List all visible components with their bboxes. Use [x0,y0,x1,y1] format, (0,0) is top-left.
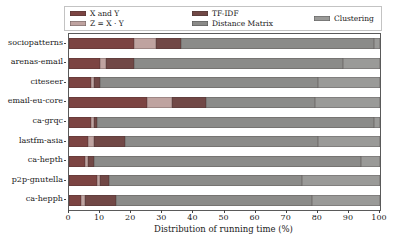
bar-segment [69,136,88,147]
bar-segment [156,38,181,49]
bar-segment [374,38,380,49]
chart-figure: X and YZ = X · YTF-IDFDistance MatrixClu… [0,0,398,241]
bar-row [69,97,380,108]
bar-segment [125,136,318,147]
bar-segment [100,175,109,186]
legend-swatch-icon [314,16,330,21]
bar-segment [318,77,380,88]
bar-segment [109,175,302,186]
y-tick-mark [64,121,66,122]
x-axis-ticks: 0102030405060708090100 [68,210,379,224]
legend-label: Clustering [334,14,374,23]
x-tick-label: 70 [281,213,291,222]
y-tick-mark [64,199,66,200]
bar-segment [134,38,156,49]
bar-segment [312,195,380,206]
legend-item: TF-IDF [192,9,314,19]
bar-segment [206,97,315,108]
bar-row [69,38,380,49]
bar-row [69,77,380,88]
x-tick-label: 80 [312,213,322,222]
x-tick-label: 30 [156,213,166,222]
y-tick-label: ca-grqc [33,117,64,125]
y-tick-mark [64,43,66,44]
bar-segment [69,156,85,167]
legend-item: Clustering [314,14,376,24]
y-tick-mark [64,160,66,161]
x-tick-label: 0 [65,213,70,222]
bar-segment [85,195,116,206]
bar-segment [315,97,380,108]
legend-swatch-icon [70,11,86,16]
bar-segment [361,156,380,167]
bar-segment [69,175,97,186]
bar-row [69,175,380,186]
x-tick-label: 20 [125,213,135,222]
legend-label: Z = X · Y [90,19,124,28]
plot-area [68,33,381,211]
bar-row [69,136,380,147]
bar-segment [147,97,172,108]
y-axis-labels: sociopatternsarenas-emailciteseeremail-e… [0,33,66,209]
bar-segment [172,97,206,108]
x-tick-label: 40 [187,213,197,222]
y-tick-label: lastfm-asia [19,137,63,145]
y-tick-mark [64,101,66,102]
bar-segment [100,77,318,88]
y-tick-mark [64,141,66,142]
bar-segment [181,38,374,49]
legend-label: X and Y [90,9,119,18]
bar-row [69,58,380,69]
y-tick-label: ca-hepth [28,156,63,164]
bar-segment [374,117,380,128]
y-tick-label: p2p-gnutella [12,176,63,184]
y-tick-mark [64,180,66,181]
y-tick-label: ca-hepph [26,195,63,203]
legend-item: Z = X · Y [70,19,192,29]
x-tick-label: 100 [371,213,386,222]
y-tick-label: sociopatterns [8,39,63,47]
legend-label: TF-IDF [212,9,239,18]
y-tick-label: citeseer [31,78,63,86]
bar-segment [97,117,374,128]
legend-column: X and YZ = X · Y [70,9,192,28]
bar-row [69,195,380,206]
y-tick-label: arenas-email [11,58,63,66]
x-axis-label: Distribution of running time (%) [68,224,379,234]
y-tick-label: email-eu-core [8,97,63,105]
bar-segment [94,156,361,167]
bar-segment [302,175,380,186]
bar-segment [69,195,81,206]
x-tick-label: 60 [250,213,260,222]
legend-swatch-icon [70,21,86,26]
bar-segment [116,195,312,206]
y-tick-mark [64,82,66,83]
bar-segment [69,117,91,128]
legend: X and YZ = X · YTF-IDFDistance MatrixClu… [64,6,382,31]
legend-item: X and Y [70,9,192,19]
bar-segment [69,97,147,108]
bar-segment [94,136,125,147]
bar-row [69,156,380,167]
bar-segment [69,77,91,88]
bar-segment [134,58,342,69]
y-tick-mark [64,62,66,63]
bar-segment [318,136,380,147]
bar-segment [69,58,100,69]
legend-column: Clustering [314,9,376,28]
bar-segment [69,38,134,49]
legend-item: Distance Matrix [192,19,314,29]
x-tick-label: 50 [218,213,228,222]
bar-segment [343,58,380,69]
bar-row [69,117,380,128]
x-tick-label: 90 [343,213,353,222]
bar-segment [106,58,134,69]
legend-swatch-icon [192,11,208,16]
legend-swatch-icon [192,21,208,26]
legend-label: Distance Matrix [212,19,273,28]
x-tick-label: 10 [94,213,104,222]
legend-column: TF-IDFDistance Matrix [192,9,314,28]
